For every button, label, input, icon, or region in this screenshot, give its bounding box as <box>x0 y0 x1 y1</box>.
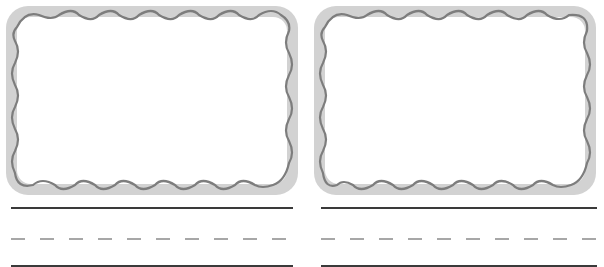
dashed-line-icon <box>321 237 597 241</box>
drawing-card-right <box>313 5 597 196</box>
writing-line-mid-left <box>11 237 293 239</box>
writing-line-top-left <box>11 207 293 209</box>
wavy-frame-icon <box>313 5 597 196</box>
writing-line-top-right <box>321 207 597 209</box>
wavy-frame-icon <box>5 5 299 196</box>
dashed-line-icon <box>11 237 293 241</box>
drawing-card-left <box>5 5 299 196</box>
writing-line-mid-right <box>321 237 597 239</box>
